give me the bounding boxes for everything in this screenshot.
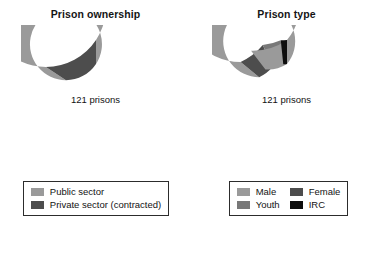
legend-swatch-male — [237, 188, 250, 196]
legend-item-public-sector: Public sector — [31, 187, 161, 197]
legend-swatch-female — [290, 188, 303, 196]
legend-item-male: Male — [237, 187, 280, 197]
legend-item-irc: IRC — [290, 200, 341, 210]
legend-item-youth: Youth — [237, 200, 280, 210]
donut-chart-prison-ownership: 121 prisons — [21, 25, 171, 175]
figure-two-donut-charts: Prison ownership 121 prisons Public sect… — [0, 0, 382, 259]
donut-slices-ownership — [21, 25, 106, 80]
legend-item-private-sector: Private sector (contracted) — [31, 200, 161, 210]
legend-item-female: Female — [290, 187, 341, 197]
legend-swatch-irc — [290, 201, 303, 209]
legend-label-female: Female — [309, 187, 341, 197]
page-title-prison-type: Prison type — [257, 9, 315, 21]
legend-prison-type: Male Female Youth IRC — [229, 181, 349, 217]
donut-chart-prison-type: 121 prisons — [212, 25, 362, 175]
legend-label-irc: IRC — [309, 200, 325, 210]
legend-swatch-private-sector — [31, 201, 44, 209]
panel-prison-type: Prison type 121 prisons Male — [191, 0, 382, 259]
legend-swatch-youth — [237, 201, 250, 209]
legend-swatch-public-sector — [31, 188, 44, 196]
page-title-prison-ownership: Prison ownership — [51, 9, 141, 21]
donut-slices-type — [212, 25, 301, 77]
donut-svg-ownership — [21, 25, 171, 175]
legend-prison-ownership: Public sector Private sector (contracted… — [23, 181, 169, 217]
legend-label-youth: Youth — [256, 200, 280, 210]
donut-svg-type — [212, 25, 362, 175]
panel-prison-ownership: Prison ownership 121 prisons Public sect… — [0, 0, 191, 259]
legend-label-private-sector: Private sector (contracted) — [50, 200, 161, 210]
legend-label-male: Male — [256, 187, 277, 197]
legend-label-public-sector: Public sector — [50, 187, 104, 197]
